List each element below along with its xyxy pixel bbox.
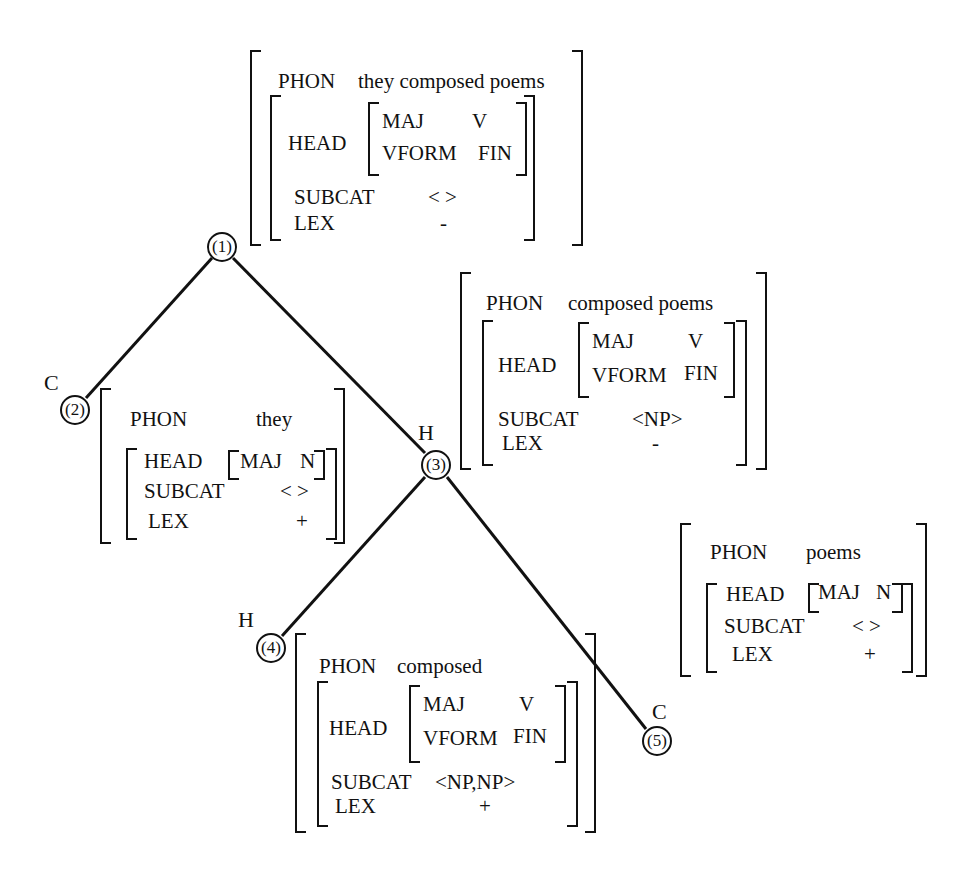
maj-key: MAJ	[423, 691, 465, 717]
maj-key: MAJ	[592, 328, 634, 354]
subcat-key: SUBCAT	[724, 613, 805, 639]
lex-key: LEX	[148, 508, 189, 534]
vform-key: VFORM	[382, 140, 457, 166]
maj-key: MAJ	[382, 108, 424, 134]
subcat-key: SUBCAT	[294, 184, 375, 210]
lex-value: +	[479, 793, 491, 819]
role-label-4: H	[238, 607, 254, 633]
subcat-key: SUBCAT	[498, 406, 579, 432]
head-key: HEAD	[726, 581, 784, 607]
subcat-key: SUBCAT	[144, 478, 225, 504]
node-2: (2)	[60, 395, 90, 425]
edge-3-5	[447, 477, 646, 729]
phon-key: PHON	[486, 290, 543, 316]
lex-key: LEX	[732, 641, 773, 667]
maj-value: V	[688, 328, 703, 354]
lex-key: LEX	[335, 793, 376, 819]
subcat-value: <NP,NP>	[435, 769, 515, 795]
head-key: HEAD	[144, 448, 202, 474]
phon-value: they	[256, 406, 292, 432]
lex-value: +	[864, 641, 876, 667]
head-key: HEAD	[329, 715, 387, 741]
phon-value: poems	[806, 539, 861, 565]
lex-value: -	[652, 430, 659, 456]
phon-value: composed	[397, 653, 482, 679]
head-key: HEAD	[288, 130, 346, 156]
phon-value: composed poems	[568, 290, 713, 316]
subcat-value: <NP>	[632, 406, 683, 432]
subcat-value: < >	[428, 184, 457, 210]
phon-key: PHON	[278, 68, 335, 94]
phon-key: PHON	[130, 406, 187, 432]
vform-key: VFORM	[592, 362, 667, 388]
role-label-3: H	[418, 420, 434, 446]
maj-value: V	[519, 691, 534, 717]
edge-1-2	[86, 258, 212, 398]
maj-key: MAJ	[240, 448, 282, 474]
subcat-value: < >	[852, 613, 881, 639]
vform-value: FIN	[513, 723, 547, 749]
node-3: (3)	[421, 450, 451, 480]
node-1: (1)	[207, 232, 237, 262]
lex-key: LEX	[502, 430, 543, 456]
vform-value: FIN	[478, 140, 512, 166]
role-label-5: C	[652, 699, 667, 725]
maj-value: V	[472, 108, 487, 134]
lex-value: -	[440, 210, 447, 236]
phon-key: PHON	[319, 653, 376, 679]
phon-key: PHON	[710, 539, 767, 565]
lex-key: LEX	[294, 210, 335, 236]
role-label-2: C	[44, 370, 59, 396]
node-4: (4)	[256, 633, 286, 663]
node-5: (5)	[642, 726, 672, 756]
maj-key: MAJ	[818, 579, 860, 605]
lex-value: +	[296, 508, 308, 534]
subcat-key: SUBCAT	[331, 769, 412, 795]
head-key: HEAD	[498, 352, 556, 378]
maj-value: N	[876, 579, 891, 605]
vform-key: VFORM	[423, 725, 498, 751]
maj-value: N	[300, 448, 315, 474]
vform-value: FIN	[684, 360, 718, 386]
phon-value: they composed poems	[358, 68, 545, 94]
subcat-value: < >	[280, 478, 309, 504]
